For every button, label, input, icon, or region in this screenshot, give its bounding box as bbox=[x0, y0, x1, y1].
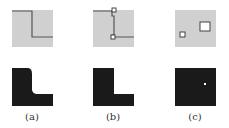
panel-a-bottom bbox=[12, 68, 53, 106]
panel-c-bottom bbox=[175, 68, 216, 106]
panel-b-top bbox=[93, 8, 134, 47]
figure-canvas bbox=[0, 0, 229, 128]
panel-a-top bbox=[12, 10, 53, 47]
panel-b-bottom bbox=[93, 68, 134, 106]
panel-c-top bbox=[175, 10, 216, 47]
caption-a: (a) bbox=[12, 111, 52, 122]
caption-c: (c) bbox=[175, 111, 215, 122]
caption-b: (b) bbox=[93, 111, 133, 122]
